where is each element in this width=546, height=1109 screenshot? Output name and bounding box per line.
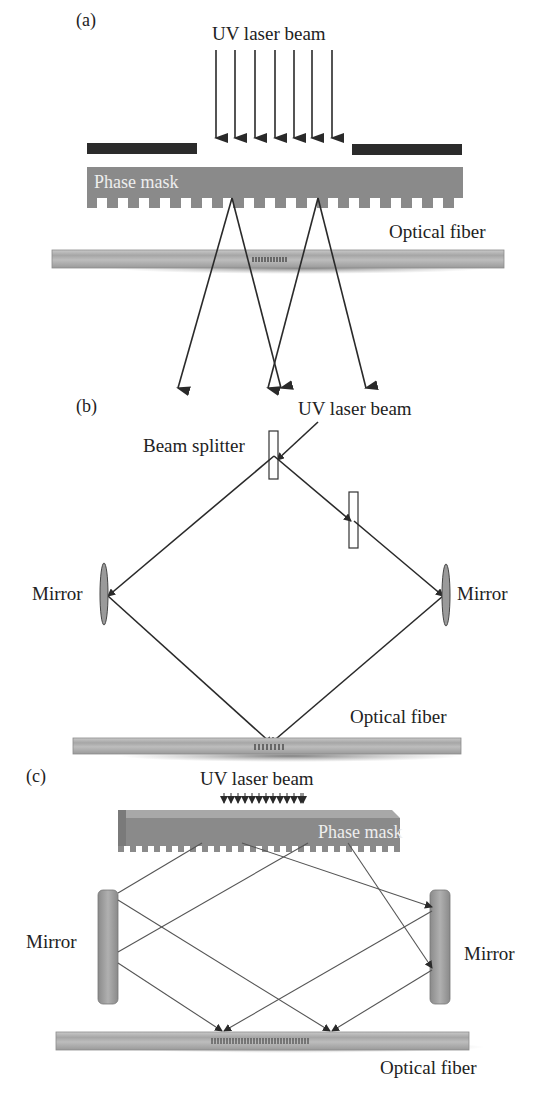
- mirror-right-c: [430, 890, 450, 1004]
- panel-c: (c) UV laser beam Phase mask: [26, 766, 515, 1078]
- mirror-right-b: [442, 564, 450, 626]
- aperture-block-right: [352, 144, 462, 155]
- panel-b: (b) UV laser beam Beam splitter Mirror M…: [32, 396, 508, 762]
- phase-mask-a: Phase mask: [87, 167, 463, 208]
- mirror-right-label-b: Mirror: [457, 583, 508, 604]
- uv-incident-arrows-a: [216, 50, 332, 138]
- mirror-left-label-c: Mirror: [26, 931, 77, 952]
- optical-fiber-c: [56, 1032, 485, 1053]
- beam-paths-c: [118, 843, 432, 1031]
- aperture-block-left: [87, 143, 197, 154]
- optical-fiber-label-b: Optical fiber: [350, 706, 447, 727]
- beam-splitter-label: Beam splitter: [143, 435, 246, 456]
- phase-mask-label-a: Phase mask: [94, 172, 179, 192]
- incident-beam-b: [277, 422, 318, 460]
- mirror-left-label-b: Mirror: [32, 583, 83, 604]
- beam-paths-b: [108, 456, 443, 744]
- optical-fiber-b: [73, 738, 461, 762]
- mirror-left-c: [98, 890, 118, 1004]
- uv-incident-arrows-c: [224, 793, 303, 803]
- uv-laser-beam-label-a: UV laser beam: [212, 23, 326, 44]
- phase-mask-label-c: Phase mask: [318, 822, 403, 842]
- optical-fiber-label-a: Optical fiber: [389, 221, 486, 242]
- panel-a-label: (a): [76, 10, 96, 31]
- beam-splitter: [269, 431, 278, 479]
- panel-b-label: (b): [76, 396, 97, 417]
- mirror-right-label-c: Mirror: [464, 943, 515, 964]
- mirror-left-b: [100, 563, 108, 625]
- phase-mask-c: Phase mask: [118, 810, 403, 852]
- panel-c-label: (c): [26, 766, 46, 787]
- panel-a: (a) UV laser beam Phase mask Optical fib…: [52, 10, 504, 388]
- optical-fiber-a: [52, 250, 504, 274]
- uv-laser-beam-label-b: UV laser beam: [298, 398, 412, 419]
- optical-fiber-label-c: Optical fiber: [380, 1057, 477, 1078]
- uv-laser-beam-label-c: UV laser beam: [200, 768, 314, 789]
- diffracted-rays-a: [178, 198, 366, 388]
- fiber-bragg-grating-diagram: (a) UV laser beam Phase mask Optical fib…: [0, 0, 546, 1109]
